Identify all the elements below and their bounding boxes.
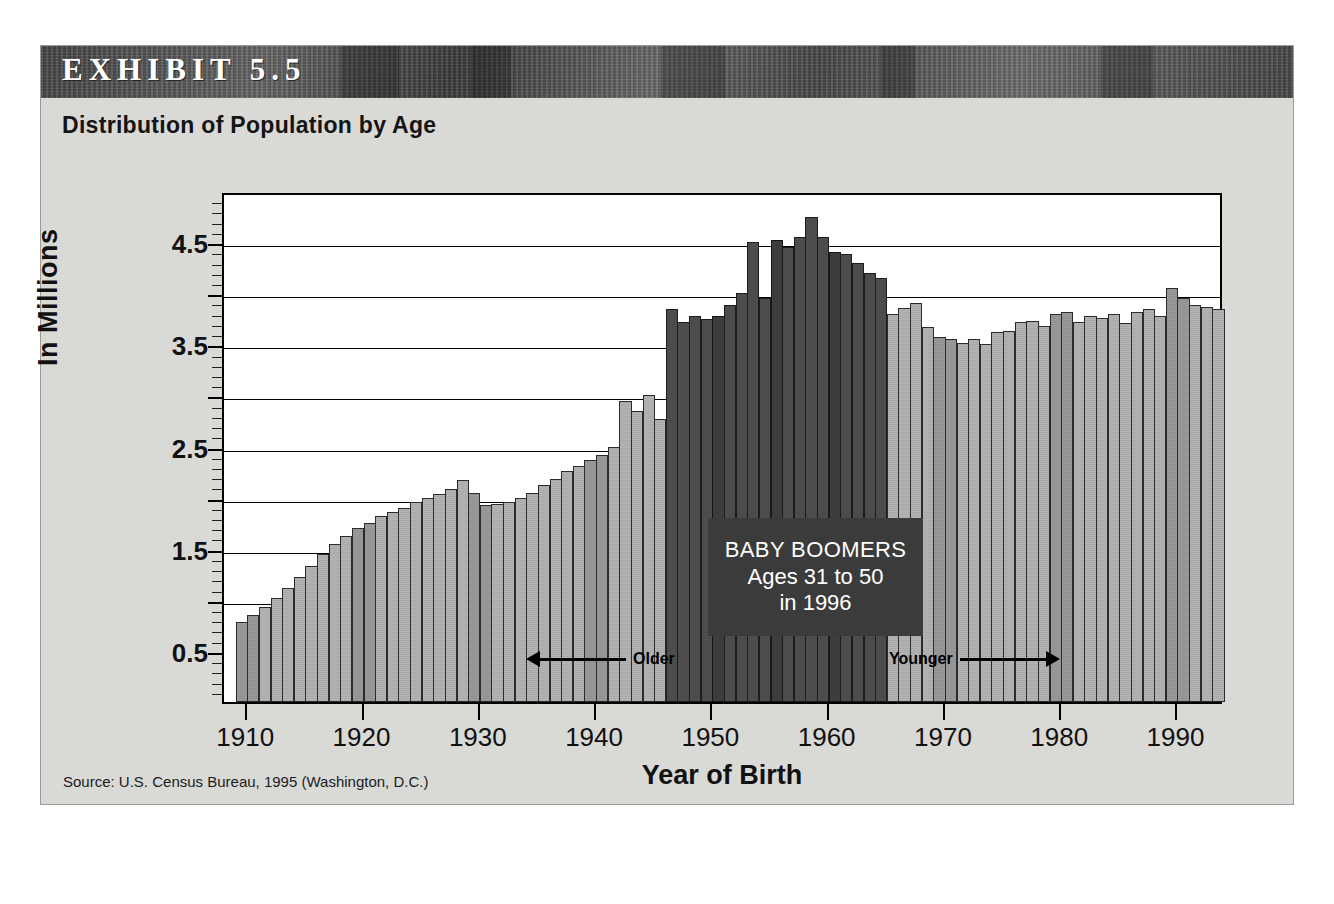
bar-1933 [515, 498, 527, 702]
y-axis-tick-mark [212, 520, 222, 521]
banner-blob-1 [341, 46, 399, 98]
bar-1930 [480, 505, 492, 702]
bar-1916 [317, 554, 329, 702]
bar-1925 [422, 498, 434, 702]
bar-1921 [375, 516, 387, 702]
y-axis-tick-mark [212, 479, 222, 480]
bar-1934 [526, 493, 538, 703]
y-axis-tick-mark [208, 397, 222, 399]
older-arrow-shaft [540, 658, 626, 661]
bar-1967 [910, 303, 922, 702]
y-axis-tick-mark [212, 673, 222, 674]
bar-1928 [457, 480, 469, 702]
y-tick-label-2-5: 2.5 [172, 433, 208, 464]
y-axis-tick-mark [212, 530, 222, 531]
y-axis-tick-mark [212, 612, 222, 613]
bar-1929 [468, 493, 480, 703]
y-axis-tick-mark [212, 275, 222, 276]
bar-1947 [677, 322, 689, 702]
y-axis-tick-mark [208, 244, 222, 246]
y-axis-tick-mark [212, 428, 222, 429]
bar-1992 [1201, 307, 1213, 703]
x-tick-mark-1940 [594, 704, 596, 720]
y-axis-tick-mark [212, 632, 222, 633]
y-axis-tick-mark [212, 684, 222, 685]
y-axis-tick-mark [212, 438, 222, 439]
y-axis-tick-mark [212, 377, 222, 378]
bar-1982 [1084, 316, 1096, 702]
y-axis-tick-mark [212, 316, 222, 317]
bar-1946 [666, 309, 678, 702]
plot-frame: BABY BOOMERS Ages 31 to 50 in 1996 Older… [222, 193, 1222, 704]
y-axis-tick-mark [212, 336, 222, 337]
callout-line-3: in 1996 [779, 590, 851, 617]
y-axis-tick-mark [212, 418, 222, 419]
y-axis-tick-mark [208, 346, 222, 348]
x-tick-mark-1990 [1175, 704, 1177, 720]
y-axis-tick-mark [212, 663, 222, 664]
y-tick-label-1-5: 1.5 [172, 535, 208, 566]
younger-arrow-shaft [960, 658, 1046, 661]
x-axis-tick-labels: 191019201930194019501960197019801990 [222, 722, 1222, 756]
banner-blob-3 [661, 46, 725, 98]
banner-blob-2 [471, 46, 511, 98]
bar-1962 [852, 263, 864, 702]
callout-line-2: Ages 31 to 50 [748, 564, 884, 591]
y-axis-tick-mark [212, 408, 222, 409]
x-tick-mark-1910 [245, 704, 247, 720]
bar-1963 [864, 273, 876, 702]
x-tick-label-1980: 1980 [1030, 722, 1088, 753]
exhibit-card: EXHIBIT 5.5 Distribution of Population b… [40, 45, 1294, 805]
bar-1986 [1131, 312, 1143, 702]
y-axis-tick-mark [212, 561, 222, 562]
y-axis-tick-mark [212, 489, 222, 490]
bar-1912 [271, 598, 283, 702]
y-axis-tick-labels: 0.51.52.53.54.5 [146, 193, 208, 704]
exhibit-banner: EXHIBIT 5.5 [41, 46, 1293, 98]
x-tick-mark-1960 [827, 704, 829, 720]
x-tick-label-1970: 1970 [914, 722, 972, 753]
plot-area: BABY BOOMERS Ages 31 to 50 in 1996 Older… [222, 193, 1222, 704]
arrow-left-icon [526, 651, 540, 667]
y-axis-tick-mark [212, 265, 222, 266]
bar-1909 [236, 622, 248, 702]
bar-1951 [724, 305, 736, 702]
bar-1966 [898, 308, 910, 702]
y-axis-tick-mark [212, 469, 222, 470]
bar-1918 [340, 536, 352, 702]
y-axis-tick-mark [212, 581, 222, 582]
callout-line-1: BABY BOOMERS [725, 537, 907, 564]
y-axis-tick-mark [212, 234, 222, 235]
bar-1977 [1026, 321, 1038, 702]
baby-boomers-callout: BABY BOOMERS Ages 31 to 50 in 1996 [708, 518, 923, 636]
y-axis-tick-mark [212, 571, 222, 572]
bar-1981 [1073, 322, 1085, 702]
exhibit-label: EXHIBIT 5.5 [62, 52, 307, 88]
bar-1914 [294, 577, 306, 702]
y-axis-tick-mark [212, 357, 222, 358]
bar-1931 [491, 504, 503, 702]
x-tick-label-1950: 1950 [681, 722, 739, 753]
younger-label: Younger [889, 650, 953, 668]
y-axis-tick-mark [212, 285, 222, 286]
younger-annotation: Younger [889, 648, 1060, 670]
bar-1932 [503, 502, 515, 702]
bar-1985 [1119, 323, 1131, 702]
bar-1917 [329, 544, 341, 702]
bar-1965 [887, 314, 899, 702]
bar-1923 [398, 508, 410, 702]
bar-1913 [282, 588, 294, 702]
bar-1993 [1212, 309, 1224, 702]
x-tick-mark-1980 [1059, 704, 1061, 720]
y-axis-tick-mark [212, 694, 222, 695]
x-tick-mark-1970 [943, 704, 945, 720]
y-tick-label-4-5: 4.5 [172, 229, 208, 260]
y-axis-tick-mark [212, 643, 222, 644]
bar-1919 [352, 528, 364, 702]
bar-1915 [305, 566, 317, 702]
bar-1975 [1003, 331, 1015, 702]
banner-blob-5 [1101, 46, 1153, 98]
y-axis-tick-mark [208, 602, 222, 604]
y-axis-tick-mark [212, 203, 222, 204]
y-axis-tick-mark [212, 540, 222, 541]
